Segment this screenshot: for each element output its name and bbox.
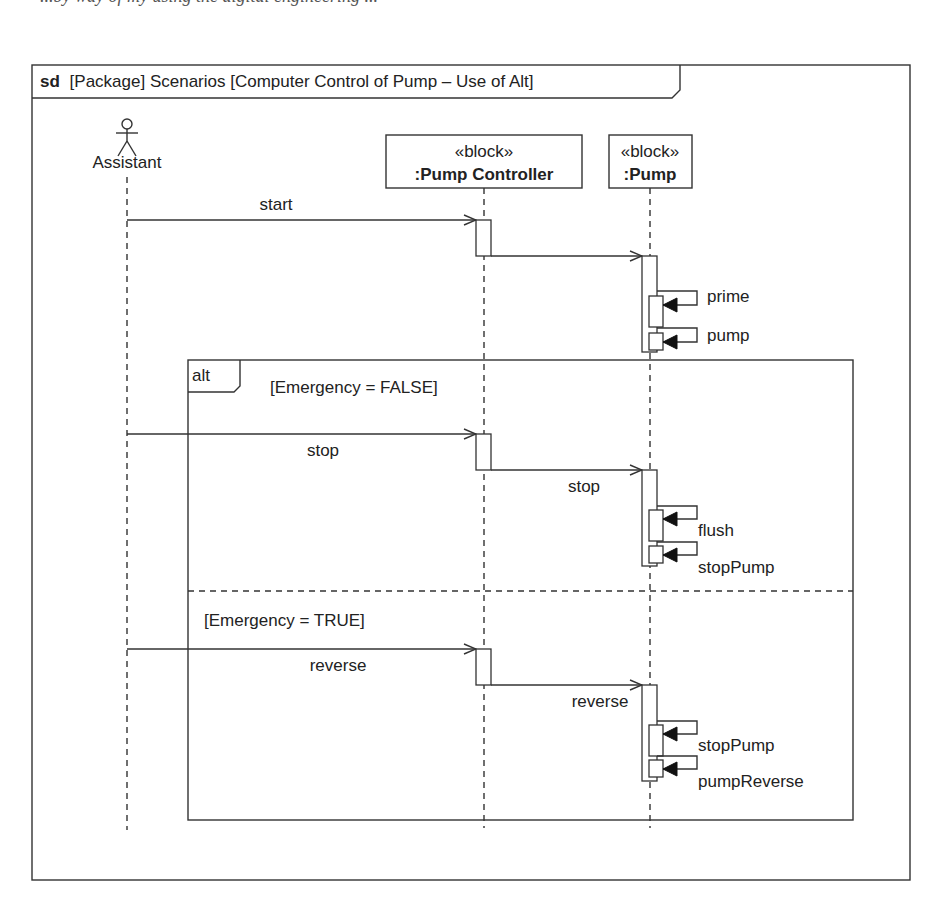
message-stop: stop <box>127 434 476 460</box>
svg-text:prime: prime <box>707 287 750 306</box>
svg-text:reverse: reverse <box>310 656 367 675</box>
frame-kind: sd <box>40 72 60 91</box>
message-reverse-forward: reverse <box>491 685 642 711</box>
actor-name: Assistant <box>93 153 162 172</box>
frame-title-text: [Package] Scenarios [Computer Control of… <box>70 72 534 91</box>
activation-controller-1 <box>476 220 491 256</box>
self-message-stoppump-1: stopPump <box>649 542 775 577</box>
frame-title: sd [Package] Scenarios [Computer Control… <box>40 72 534 91</box>
self-message-pump: pump <box>649 326 750 350</box>
pump-stereotype: «block» <box>621 142 680 161</box>
message-reverse: reverse <box>127 649 476 675</box>
self-message-prime: prime <box>649 287 750 327</box>
svg-text:flush: flush <box>698 521 734 540</box>
page-caption-fragment: ...by way of my using the digital engine… <box>40 0 378 7</box>
self-message-pumpreverse: pumpReverse <box>649 756 804 791</box>
controller-stereotype: «block» <box>455 142 514 161</box>
self-message-flush: flush <box>649 506 734 541</box>
message-stop-forward: stop <box>491 470 642 496</box>
controller-name: :Pump Controller <box>415 165 554 184</box>
svg-text:stop: stop <box>307 441 339 460</box>
pump-name: :Pump <box>624 165 677 184</box>
alt-operator: alt <box>192 366 210 385</box>
svg-text:reverse: reverse <box>572 692 629 711</box>
svg-text:stopPump: stopPump <box>698 736 775 755</box>
svg-text:pumpReverse: pumpReverse <box>698 772 804 791</box>
svg-text:start: start <box>259 195 292 214</box>
actor-assistant: Assistant <box>93 119 162 830</box>
sequence-diagram: sd [Package] Scenarios [Computer Control… <box>0 0 939 903</box>
svg-text:pump: pump <box>707 326 750 345</box>
svg-text:stop: stop <box>568 477 600 496</box>
message-start: start <box>127 195 476 220</box>
activation-controller-3 <box>476 649 491 685</box>
svg-text:stopPump: stopPump <box>698 558 775 577</box>
stick-figure-icon <box>116 119 138 156</box>
guard-true: [Emergency = TRUE] <box>204 611 365 630</box>
guard-false: [Emergency = FALSE] <box>270 378 438 397</box>
self-message-stoppump-2: stopPump <box>649 721 775 756</box>
activation-controller-2 <box>476 434 491 470</box>
